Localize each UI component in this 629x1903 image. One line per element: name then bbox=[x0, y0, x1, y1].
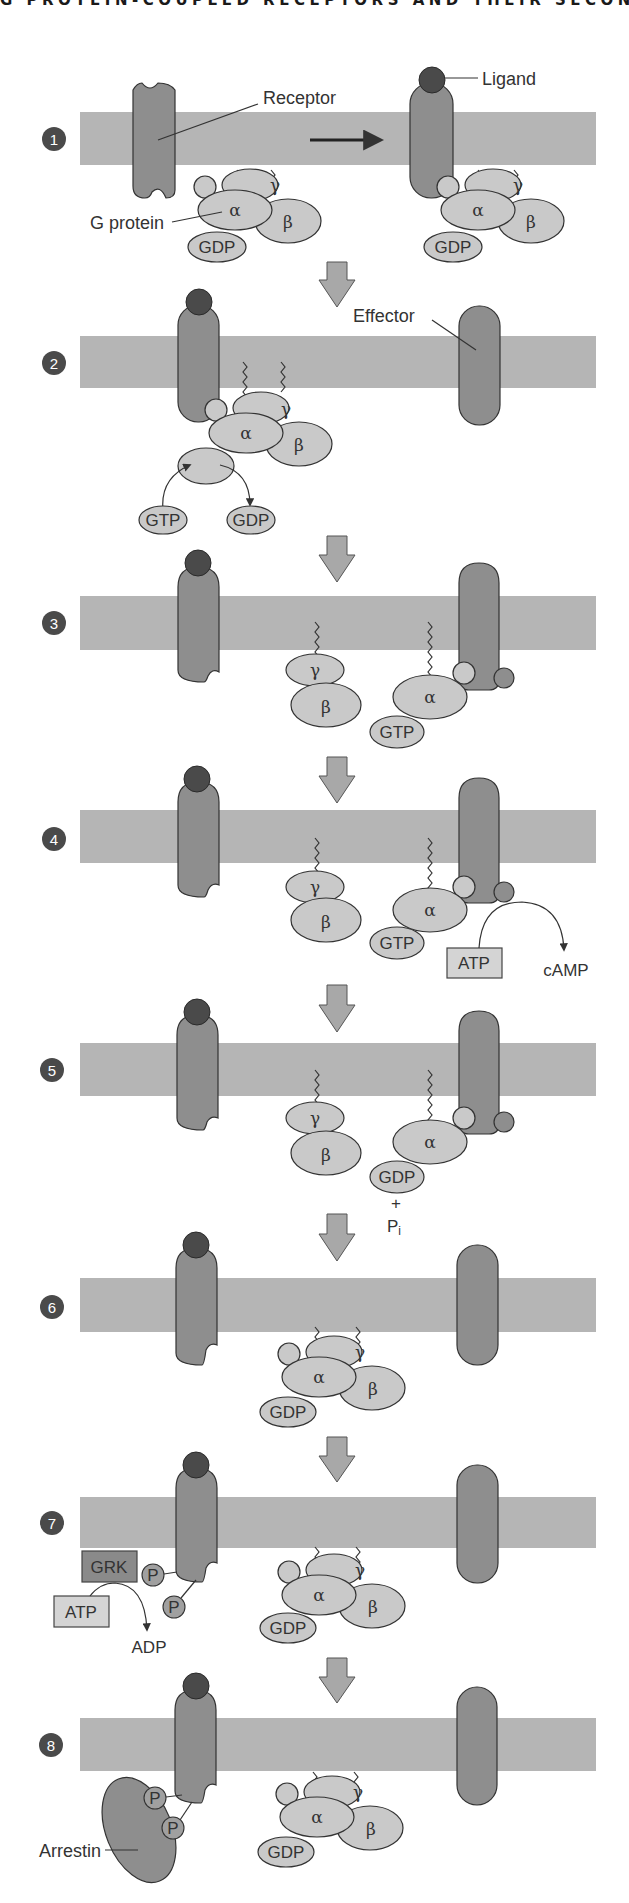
receptor-active bbox=[177, 1015, 218, 1130]
alpha-label: α bbox=[229, 200, 241, 220]
membrane bbox=[80, 1043, 596, 1096]
receptor-phosphorylated bbox=[175, 1690, 216, 1803]
beta-label: β bbox=[321, 912, 331, 932]
gtp-label: GTP bbox=[146, 511, 181, 530]
alpha-label: α bbox=[424, 900, 436, 920]
beta-label: β bbox=[368, 1597, 378, 1617]
step-flow-arrow bbox=[319, 1214, 355, 1261]
effector bbox=[457, 1245, 498, 1365]
ligand bbox=[184, 766, 210, 792]
ligand bbox=[183, 1452, 209, 1478]
step-number: 8 bbox=[47, 1737, 55, 1754]
effector-binding-bump bbox=[494, 882, 514, 902]
gamma-label: γ bbox=[513, 175, 523, 195]
membrane bbox=[80, 1718, 596, 1771]
effector bbox=[459, 306, 500, 425]
step-flow-arrow bbox=[319, 1658, 355, 1703]
gamma-label: γ bbox=[353, 1782, 363, 1802]
receptor-active bbox=[178, 782, 219, 897]
effector bbox=[457, 1465, 498, 1583]
g-protein-label: G protein bbox=[90, 213, 164, 233]
alpha-label: α bbox=[240, 423, 252, 443]
alpha-label: α bbox=[313, 1585, 325, 1605]
step-number: 7 bbox=[48, 1515, 56, 1532]
ligand bbox=[185, 550, 211, 576]
beta-label: β bbox=[526, 212, 536, 232]
step-number: 1 bbox=[50, 131, 58, 148]
phosphate-label: P bbox=[167, 1819, 178, 1838]
beta-label: β bbox=[283, 212, 293, 232]
gdp-label: GDP bbox=[435, 238, 472, 257]
atp-to-camp-arrow bbox=[479, 902, 564, 950]
gamma-label: γ bbox=[310, 877, 320, 897]
step-number: 6 bbox=[48, 1299, 56, 1316]
gamma-label: γ bbox=[355, 1560, 365, 1580]
pi-label: Pi bbox=[387, 1217, 401, 1239]
arrestin-label: Arrestin bbox=[39, 1841, 101, 1861]
alpha-label: α bbox=[313, 1367, 325, 1387]
alpha-label: α bbox=[311, 1807, 323, 1827]
phosphate-label: P bbox=[147, 1566, 158, 1585]
step-flow-arrow bbox=[319, 262, 355, 307]
effector-binding-bump bbox=[494, 668, 514, 688]
gtp-label: GTP bbox=[380, 723, 415, 742]
gamma-label: γ bbox=[310, 660, 320, 680]
step-number: 5 bbox=[48, 1062, 56, 1079]
membrane bbox=[80, 336, 596, 388]
receptor-active bbox=[178, 567, 219, 682]
ligand bbox=[184, 999, 210, 1025]
step-number: 3 bbox=[50, 615, 58, 632]
ligand bbox=[186, 289, 212, 315]
step-2: 2 Effector γ α β GTP GDP bbox=[42, 289, 596, 534]
step-flow-arrow bbox=[319, 1437, 355, 1482]
beta-label: β bbox=[366, 1819, 376, 1839]
gamma-label: γ bbox=[355, 1342, 365, 1362]
grk-label: GRK bbox=[91, 1558, 129, 1577]
receptor-inactive bbox=[133, 83, 175, 198]
membrane bbox=[80, 810, 596, 863]
receptor-active bbox=[176, 1248, 217, 1365]
membrane bbox=[80, 1278, 596, 1332]
phosphate-link bbox=[164, 1572, 177, 1574]
step-number: 4 bbox=[50, 831, 58, 848]
ligand bbox=[183, 1232, 209, 1258]
step-5: 5 γ β α GDP + Pi bbox=[40, 999, 596, 1238]
alpha-label: α bbox=[424, 687, 436, 707]
gdp-label: GDP bbox=[268, 1843, 305, 1862]
adp-label: ADP bbox=[132, 1638, 167, 1657]
membrane bbox=[80, 1497, 596, 1548]
membrane bbox=[80, 596, 596, 650]
beta-label: β bbox=[368, 1379, 378, 1399]
step-number: 2 bbox=[50, 355, 58, 372]
phosphate-link bbox=[181, 1580, 196, 1598]
gamma-label: γ bbox=[310, 1108, 320, 1128]
step-3: 3 γ β α GTP bbox=[42, 550, 596, 748]
alpha-bump bbox=[453, 1107, 475, 1129]
effector bbox=[457, 1687, 497, 1805]
step-8: 8 P P Arrestin γ α β GDP bbox=[39, 1673, 596, 1893]
atp-label: ATP bbox=[458, 954, 490, 973]
step-7: 7 GRK P P ATP ADP γ α β GDP bbox=[40, 1452, 596, 1657]
beta-label: β bbox=[294, 435, 304, 455]
step-flow-arrow bbox=[319, 536, 355, 582]
plus-sign: + bbox=[391, 1194, 401, 1213]
ligand bbox=[183, 1673, 209, 1699]
beta-label: β bbox=[321, 697, 331, 717]
gtp-label: GTP bbox=[380, 934, 415, 953]
effector-binding-bump bbox=[494, 1112, 514, 1132]
effector-label: Effector bbox=[353, 306, 415, 326]
gdp-label: GDP bbox=[270, 1619, 307, 1638]
receptor-label: Receptor bbox=[263, 88, 336, 108]
alpha-label: α bbox=[424, 1132, 436, 1152]
ligand bbox=[419, 67, 445, 93]
phosphate-label: P bbox=[168, 1598, 179, 1617]
phosphate-link bbox=[180, 1802, 192, 1820]
step-4: 4 γ β α GTP ATP cAMP bbox=[42, 766, 596, 980]
alpha-bump bbox=[453, 662, 475, 684]
receptor-phosphorylated bbox=[176, 1468, 217, 1582]
gdp-label: GDP bbox=[379, 1168, 416, 1187]
gamma-label: γ bbox=[270, 175, 280, 195]
gamma-label: γ bbox=[281, 399, 291, 419]
ligand-label: Ligand bbox=[482, 69, 536, 89]
camp-label: cAMP bbox=[543, 961, 588, 980]
